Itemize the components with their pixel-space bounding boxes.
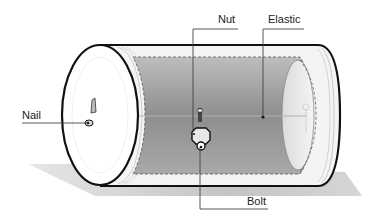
can-diagram <box>0 0 370 224</box>
left-end-cap <box>62 45 138 185</box>
right-end-cap-inner <box>282 60 314 170</box>
label-nut: Nut <box>218 14 235 25</box>
label-bolt: Bolt <box>247 196 266 207</box>
label-nail: Nail <box>22 110 41 121</box>
label-elastic: Elastic <box>268 14 300 25</box>
